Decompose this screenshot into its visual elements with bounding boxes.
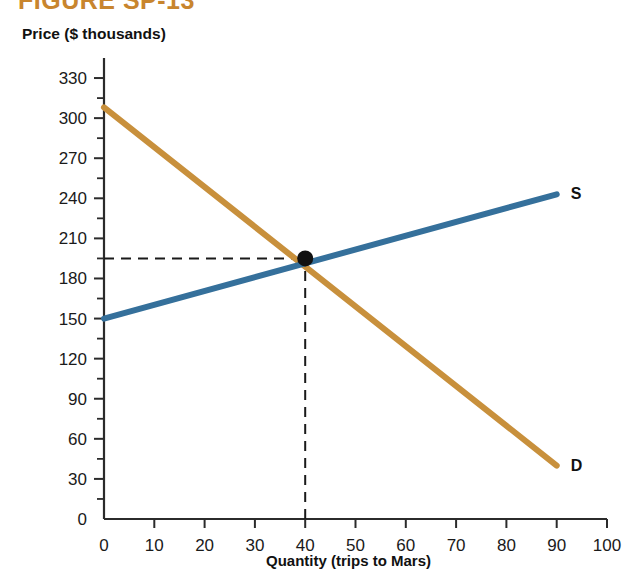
curve-D <box>104 107 557 465</box>
chart-plot-area: 0306090120150180210240270300330 01020304… <box>0 0 627 582</box>
equilibrium-point <box>297 250 313 266</box>
x-axis-title: Quantity (trips to Mars) <box>266 552 431 569</box>
axis-lines <box>104 58 607 519</box>
x-axis-title-wrap: Quantity (trips to Mars) <box>0 552 627 569</box>
equilibrium-point-marker <box>297 250 313 266</box>
y-tick-label: 150 <box>59 310 87 329</box>
y-tick-label: 210 <box>59 229 87 248</box>
curve-label-S: S <box>571 185 582 202</box>
chart-series-curves <box>104 107 557 465</box>
y-tick-label: 30 <box>68 470 87 489</box>
y-tick-label: 120 <box>59 350 87 369</box>
y-tick-label: 330 <box>59 69 87 88</box>
y-tick-label: 90 <box>68 390 87 409</box>
figure-container: FIGURE SP-13 Price ($ thousands) 0306090… <box>0 0 627 582</box>
equilibrium-guide-lines <box>104 258 305 519</box>
y-tick-label: 180 <box>59 269 87 288</box>
curve-S <box>104 194 557 318</box>
y-axis-tick-labels: 0306090120150180210240270300330 <box>59 69 87 529</box>
x-axis-major-ticks <box>154 519 607 528</box>
curve-label-D: D <box>571 457 583 474</box>
y-tick-label: 60 <box>68 430 87 449</box>
y-tick-label: 270 <box>59 149 87 168</box>
chart-series-labels: DS <box>571 185 583 473</box>
y-tick-label: 0 <box>78 510 87 529</box>
y-tick-label: 300 <box>59 109 87 128</box>
y-tick-label: 240 <box>59 189 87 208</box>
